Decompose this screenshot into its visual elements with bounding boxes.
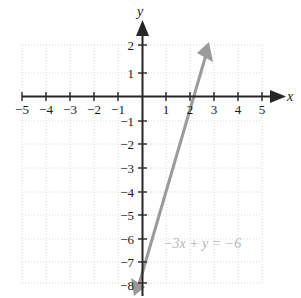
x-tick-label--4: −4 <box>39 102 53 117</box>
x-axis-label: x <box>286 89 294 104</box>
x-axis <box>22 90 286 103</box>
x-tick-label-4: 4 <box>235 102 242 117</box>
x-tick-label-5: 5 <box>259 102 266 117</box>
x-tick-label--3: −3 <box>63 102 77 117</box>
x-tick-label-3: 3 <box>211 102 218 117</box>
y-tick-label--3: −3 <box>120 161 134 176</box>
y-tick-label-2: 2 <box>128 38 135 53</box>
y-tick-label--8: −8 <box>120 278 134 293</box>
x-axis-arrowhead-icon <box>270 90 286 103</box>
y-tick-label--1: −1 <box>120 114 134 129</box>
y-tick-label--6: −6 <box>120 232 134 247</box>
x-tick-labels: −5 −4 −3 −2 −1 1 2 3 4 5 <box>15 102 265 117</box>
y-axis-label: y <box>135 4 144 19</box>
y-tick-label--7: −7 <box>120 255 134 270</box>
x-tick-label-1: 1 <box>163 102 170 117</box>
y-tick-label--2: −2 <box>120 137 134 152</box>
equation-annotation: −3x + y = −6 <box>163 236 241 251</box>
y-axis-arrowhead-icon <box>136 20 149 36</box>
x-tick-label-2: 2 <box>187 102 194 117</box>
y-tick-label-1: 1 <box>128 66 135 81</box>
y-tick-label--5: −5 <box>120 208 134 223</box>
y-tick-labels: 2 1 −1 −2 −3 −4 −5 −6 −7 −8 <box>120 38 134 293</box>
x-tick-label--2: −2 <box>87 102 101 117</box>
coordinate-plane-figure: −5 −4 −3 −2 −1 1 2 3 4 5 2 1 −1 −2 −3 −4… <box>0 0 301 298</box>
graph-canvas: −5 −4 −3 −2 −1 1 2 3 4 5 2 1 −1 −2 −3 −4… <box>0 0 301 298</box>
plotted-line <box>137 48 208 291</box>
y-tick-label--4: −4 <box>120 185 134 200</box>
x-tick-label--5: −5 <box>15 102 29 117</box>
